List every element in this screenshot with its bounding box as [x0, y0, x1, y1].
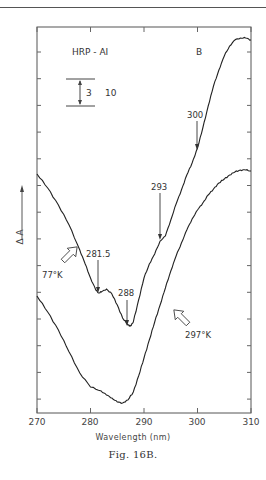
- x-axis-label: Wavelength (nm): [0, 433, 266, 442]
- temp-label-297K: 297°K: [185, 330, 211, 340]
- x-tick-label: 270: [28, 417, 45, 427]
- temp-label-77K: 77°K: [42, 270, 63, 280]
- curve-297K: [37, 170, 251, 404]
- y-axis-label: Δ A: [15, 229, 25, 244]
- plot-area: [0, 0, 266, 480]
- x-tick-label: 290: [135, 417, 152, 427]
- x-tick-label: 310: [242, 417, 259, 427]
- curve-77K: [37, 37, 251, 326]
- peak-label-288: 288: [118, 288, 134, 298]
- hollow-arrow-297K: [170, 306, 193, 329]
- scale-unit: 10: [105, 88, 116, 98]
- x-tick-label: 300: [188, 417, 205, 427]
- panel-label: B: [196, 47, 202, 57]
- scale-value: 3: [86, 88, 92, 98]
- x-tick-label: 280: [81, 417, 98, 427]
- peak-label-300: 300: [187, 110, 203, 120]
- peak-label-281-5: 281.5: [86, 249, 110, 259]
- figure-caption: Fig. 16B.: [0, 449, 266, 460]
- plot-frame: [37, 27, 251, 413]
- sample-label: HRP - AI: [72, 47, 108, 57]
- peak-label-293: 293: [151, 182, 167, 192]
- peak-arrows: [96, 121, 199, 326]
- axis-ticks: [37, 27, 251, 413]
